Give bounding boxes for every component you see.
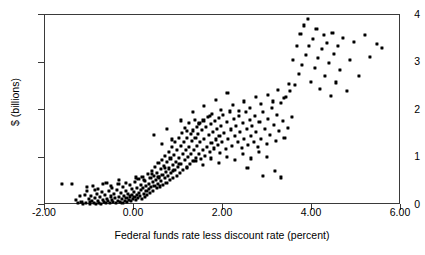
- x-axis-title: Federal funds rate less discount rate (p…: [44, 229, 400, 241]
- data-point: [166, 174, 169, 177]
- data-point: [178, 156, 181, 159]
- data-point: [324, 74, 327, 77]
- data-point: [172, 169, 175, 172]
- data-point: [158, 185, 161, 188]
- data-point: [333, 52, 336, 55]
- data-point: [90, 194, 93, 197]
- data-point: [198, 141, 201, 144]
- data-point: [260, 103, 263, 106]
- data-point: [164, 155, 167, 158]
- data-point: [285, 95, 288, 98]
- data-point: [201, 164, 204, 167]
- data-point: [156, 171, 159, 174]
- data-point: [175, 174, 178, 177]
- data-point: [220, 124, 223, 127]
- x-tick-label-4: 6.00: [370, 207, 425, 218]
- data-point: [209, 157, 212, 160]
- x-tick-label-1: 0.00: [103, 207, 163, 218]
- data-point: [281, 120, 284, 123]
- data-point: [186, 155, 189, 158]
- data-point: [327, 61, 330, 64]
- data-point: [311, 37, 314, 40]
- data-point: [117, 182, 120, 185]
- data-point: [213, 147, 216, 150]
- data-point: [124, 181, 127, 184]
- data-point: [189, 163, 192, 166]
- data-point: [128, 184, 131, 187]
- data-point: [142, 179, 145, 182]
- data-point: [306, 17, 309, 20]
- data-point: [187, 122, 190, 125]
- data-point: [283, 136, 286, 139]
- data-point: [168, 167, 171, 170]
- data-point: [190, 140, 193, 143]
- data-point: [265, 143, 268, 146]
- data-point: [135, 176, 138, 179]
- data-point: [227, 137, 230, 140]
- data-point: [209, 123, 212, 126]
- data-point: [334, 81, 337, 84]
- data-point: [207, 134, 210, 137]
- data-point: [161, 173, 164, 176]
- data-point: [115, 189, 118, 192]
- data-point: [228, 110, 231, 113]
- data-point: [223, 131, 226, 134]
- data-point: [368, 55, 371, 58]
- x-tick-label-2: 2.00: [192, 207, 252, 218]
- data-point: [299, 32, 302, 35]
- data-point: [208, 114, 211, 117]
- data-point: [135, 186, 138, 189]
- data-point: [215, 127, 218, 130]
- data-point: [349, 59, 352, 62]
- data-point: [235, 125, 238, 128]
- data-point: [185, 149, 188, 152]
- data-point: [262, 110, 265, 113]
- data-point: [147, 182, 150, 185]
- data-point: [160, 158, 163, 161]
- data-point: [196, 145, 199, 148]
- data-point: [164, 166, 167, 169]
- data-point: [345, 89, 348, 92]
- data-point: [193, 118, 196, 121]
- data-point: [301, 63, 304, 66]
- data-point: [60, 183, 63, 186]
- data-point: [267, 117, 270, 120]
- data-point: [117, 179, 120, 182]
- data-point: [248, 118, 251, 121]
- data-point: [277, 89, 280, 92]
- data-point: [150, 172, 153, 175]
- data-point: [357, 74, 360, 77]
- data-point: [297, 73, 300, 76]
- data-point: [288, 89, 291, 92]
- data-point: [194, 156, 197, 159]
- data-point: [197, 153, 200, 156]
- data-point: [295, 44, 298, 47]
- data-point: [203, 137, 206, 140]
- data-point: [233, 159, 236, 162]
- data-point: [202, 119, 205, 122]
- data-point: [205, 145, 208, 148]
- data-point: [236, 141, 239, 144]
- data-point: [279, 101, 282, 104]
- data-point: [86, 189, 89, 192]
- data-point: [308, 44, 311, 47]
- data-point: [157, 162, 160, 165]
- data-point: [214, 138, 217, 141]
- data-point: [270, 106, 273, 109]
- data-point: [310, 80, 313, 83]
- data-point: [221, 140, 224, 143]
- data-point: [265, 155, 268, 158]
- data-point: [219, 151, 222, 154]
- data-point: [201, 149, 204, 152]
- data-point: [171, 138, 174, 141]
- data-point: [322, 33, 325, 36]
- data-point: [331, 32, 334, 35]
- data-point: [226, 92, 229, 95]
- data-point: [218, 135, 221, 138]
- data-point: [252, 140, 255, 143]
- data-point: [169, 157, 172, 160]
- data-point: [217, 162, 220, 165]
- data-point: [257, 150, 260, 153]
- data-point: [174, 141, 177, 144]
